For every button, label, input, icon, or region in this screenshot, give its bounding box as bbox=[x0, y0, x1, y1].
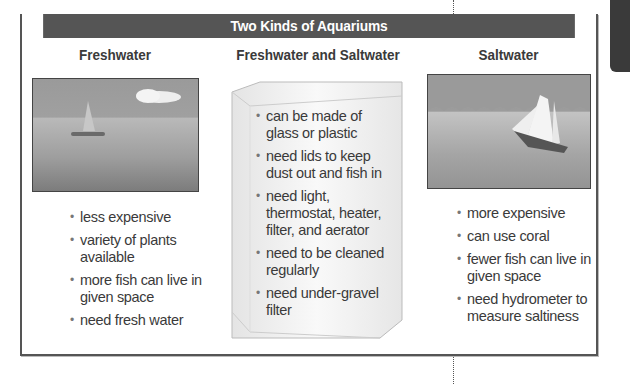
freshwater-image bbox=[32, 78, 199, 192]
list-item: need fresh water bbox=[70, 312, 205, 329]
list-item: more expensive bbox=[457, 205, 607, 222]
column-heading-freshwater: Freshwater bbox=[40, 46, 189, 63]
list-item: can use coral bbox=[457, 228, 607, 245]
list-item: less expensive bbox=[70, 209, 205, 226]
list-item: need hydrometer to measure saltiness bbox=[457, 291, 607, 325]
dotted-guide-top bbox=[453, 0, 454, 14]
comparison-chart: Two Kinds of Aquariums Freshwater less e… bbox=[20, 14, 598, 356]
list-item: need to be cleaned regularly bbox=[256, 245, 396, 279]
sailboat-icon bbox=[33, 79, 198, 191]
list-item: more fish can live in given space bbox=[70, 272, 205, 306]
column-heading-saltwater: Saltwater bbox=[435, 46, 582, 63]
tank-image: can be made of glass or plastic need lid… bbox=[230, 80, 404, 342]
common-features-list: can be made of glass or plastic need lid… bbox=[256, 108, 396, 325]
schooner-icon bbox=[428, 75, 590, 188]
list-item: need light, thermostat, heater, filter, … bbox=[256, 188, 396, 239]
list-item: fewer fish can live in given space bbox=[457, 251, 607, 285]
list-item: need under-gravel filter bbox=[256, 285, 396, 319]
list-item: can be made of glass or plastic bbox=[256, 108, 396, 142]
dotted-guide-bottom bbox=[453, 356, 454, 384]
saltwater-list: more expensive can use coral fewer fish … bbox=[457, 205, 607, 331]
chart-title: Two Kinds of Aquariums bbox=[43, 14, 575, 38]
page-edge-tab bbox=[610, 0, 630, 72]
saltwater-image bbox=[427, 74, 591, 189]
list-item: need lids to keep dust out and fish in bbox=[256, 148, 396, 182]
list-item: variety of plants available bbox=[70, 232, 205, 266]
column-heading-both: Freshwater and Saltwater bbox=[210, 46, 426, 63]
freshwater-list: less expensive variety of plants availab… bbox=[70, 209, 205, 335]
